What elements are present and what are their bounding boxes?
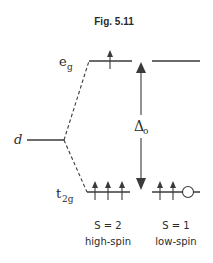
figure-title: Fig. 5.11 [94, 16, 134, 27]
spin-up-arrow-icon [157, 181, 163, 200]
correlation-line-eg [64, 61, 89, 140]
correlation-line-t2g [64, 140, 87, 192]
eg-label: e g [59, 54, 73, 72]
t2g-label: t 2g [56, 186, 74, 204]
spin-up-arrow-icon [170, 181, 176, 200]
svg-text:g: g [67, 62, 73, 72]
d-orbital-label: d [14, 132, 22, 147]
delta-o-label: Δ o [134, 118, 148, 136]
svg-text:2g: 2g [62, 194, 74, 204]
high-spin-label: high-spin [85, 236, 131, 247]
spin-up-arrow-icon [119, 181, 125, 200]
spin-up-arrow-icon [92, 181, 98, 200]
high-spin-s-label: S = 2 [94, 220, 121, 231]
svg-text:o: o [143, 126, 148, 136]
crystal-field-splitting-diagram: Fig. 5.11 d e g Δ o t 2g [0, 0, 213, 263]
low-spin-s-label: S = 1 [162, 220, 189, 231]
empty-orbital-circle-icon [183, 187, 194, 198]
low-spin-label: low-spin [155, 236, 196, 247]
svg-text:e: e [59, 54, 67, 69]
spin-up-arrow-icon [105, 181, 111, 200]
spin-up-arrow-icon [107, 50, 113, 69]
